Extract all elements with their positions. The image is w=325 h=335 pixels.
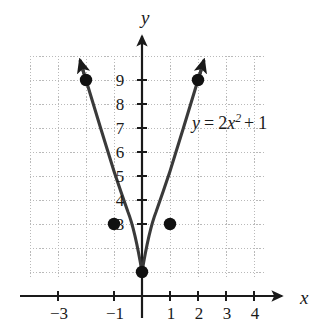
y-tick-label-9: 9 (110, 72, 130, 89)
x-tick-label-2: 2 (188, 305, 210, 322)
point-neg2-9 (80, 74, 92, 86)
x-tick-label-1: 1 (160, 305, 182, 322)
point-1-3 (164, 218, 176, 230)
parabola-figure: y x 9 8 7 6 5 4 3 −3 −1 1 2 3 4 y=2x2+1 (0, 0, 325, 335)
equation-equals: = (204, 113, 214, 133)
y-tick-label-4: 4 (110, 192, 130, 209)
y-axis-label: y (141, 8, 149, 27)
y-tick-label-6: 6 (110, 144, 130, 161)
y-tick-label-7: 7 (110, 120, 130, 137)
x-tick-label-neg1: −1 (104, 305, 126, 322)
equation-variable: x (227, 113, 235, 133)
equation-plus: + (244, 113, 254, 133)
point-0-1 (136, 266, 148, 278)
equation-constant: 1 (258, 113, 267, 133)
x-axis-label: x (300, 288, 308, 307)
graph-canvas (0, 0, 325, 335)
x-tick-label-neg3: −3 (48, 305, 70, 322)
y-tick-label-3: 3 (110, 216, 130, 233)
x-tick-label-3: 3 (216, 305, 238, 322)
point-2-9 (192, 74, 204, 86)
x-tick-label-4: 4 (244, 305, 266, 322)
equation-exponent: 2 (235, 111, 241, 125)
y-tick-label-8: 8 (110, 96, 130, 113)
equation-coefficient: 2 (218, 113, 227, 133)
y-tick-label-5: 5 (110, 168, 130, 185)
equation-annotation: y=2x2+1 (192, 113, 267, 132)
equation-lhs: y (192, 113, 200, 133)
